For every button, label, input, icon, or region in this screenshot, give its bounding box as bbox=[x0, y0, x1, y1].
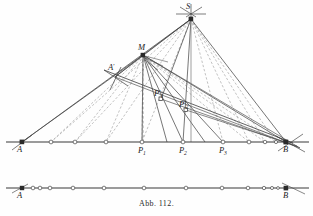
label-P3-subscript: 3 bbox=[224, 150, 227, 156]
geometry-figure-svg bbox=[0, 0, 313, 216]
label-P2-prime: P'2 bbox=[179, 100, 189, 109]
vertex-M bbox=[141, 53, 145, 57]
label-P1-prime-subscript: 1 bbox=[160, 93, 163, 99]
label-A-prime-tick: ' bbox=[113, 62, 115, 70]
solid-rays-from-S bbox=[22, 19, 286, 142]
label-P2: P2 bbox=[179, 146, 187, 155]
label-B: B bbox=[283, 145, 288, 154]
transversal-through-A-prime bbox=[104, 70, 293, 143]
label-P3: P3 bbox=[219, 146, 227, 155]
label-P2-subscript: 2 bbox=[184, 150, 187, 156]
label-P2-prime-subscript: 2 bbox=[185, 104, 188, 110]
label-P1-prime: P'1 bbox=[154, 89, 164, 98]
figure-container: S M A' A B P1 P2 P3 P'1 P'2 A B Abb. 112… bbox=[0, 0, 313, 216]
vertex-S bbox=[189, 17, 194, 22]
label-P1-subscript: 1 bbox=[143, 150, 146, 156]
label-A: A bbox=[17, 145, 22, 154]
label-M: M bbox=[138, 43, 145, 52]
label-S: S bbox=[186, 2, 190, 11]
label-A-prime: A' bbox=[108, 63, 115, 72]
label-P1: P1 bbox=[138, 146, 146, 155]
base-line-tails bbox=[12, 134, 305, 152]
figure-caption: Abb. 112. bbox=[0, 199, 313, 208]
